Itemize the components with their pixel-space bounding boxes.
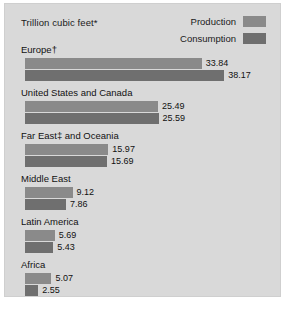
chart-legend: Production Consumption — [116, 14, 266, 48]
bar-value-label: 15.69 — [111, 156, 134, 167]
bar-row: 5.43 — [5, 242, 280, 253]
bar-group: Africa5.072.55 — [5, 259, 280, 296]
bar-consumption — [25, 285, 38, 296]
bar-consumption — [25, 242, 53, 253]
bar-group: Middle East9.127.86 — [5, 173, 280, 210]
bar-production — [25, 230, 55, 241]
chart-panel: Trillion cubic feet* Production Consumpt… — [4, 3, 281, 297]
bar-value-label: 25.49 — [162, 101, 185, 112]
bar-group: Latin America5.695.43 — [5, 216, 280, 253]
bar-group-label: Europe† — [21, 44, 280, 55]
bar-row: 33.84 — [5, 58, 280, 69]
legend-item-production: Production — [116, 14, 266, 29]
bar-group-label: Middle East — [21, 173, 280, 184]
bar-consumption — [25, 156, 107, 167]
bar-value-label: 15.97 — [112, 144, 135, 155]
legend-label-production: Production — [191, 16, 236, 27]
bar-group-label: Latin America — [21, 216, 280, 227]
bar-value-label: 25.59 — [163, 113, 186, 124]
bar-group: Europe†33.8438.17 — [5, 44, 280, 81]
bar-group-label: United States and Canada — [21, 87, 280, 98]
bar-consumption — [25, 70, 224, 81]
bar-row: 5.07 — [5, 273, 280, 284]
bar-row: 2.55 — [5, 285, 280, 296]
bar-row: 38.17 — [5, 70, 280, 81]
chart-units-title: Trillion cubic feet* — [21, 17, 98, 28]
bar-consumption — [25, 113, 159, 124]
bar-value-label: 38.17 — [228, 70, 251, 81]
bar-group-label: Far East‡ and Oceania — [21, 130, 280, 141]
bar-row: 5.69 — [5, 230, 280, 241]
legend-label-consumption: Consumption — [180, 33, 236, 44]
bar-value-label: 7.86 — [70, 199, 88, 210]
bar-production — [25, 101, 158, 112]
bar-consumption — [25, 199, 66, 210]
bar-row: 7.86 — [5, 199, 280, 210]
bar-row: 9.12 — [5, 187, 280, 198]
bar-group: United States and Canada25.4925.59 — [5, 87, 280, 124]
bar-group: Far East‡ and Oceania15.9715.69 — [5, 130, 280, 167]
bar-production — [25, 187, 73, 198]
bar-row: 15.69 — [5, 156, 280, 167]
bar-row: 25.49 — [5, 101, 280, 112]
bar-row: 15.97 — [5, 144, 280, 155]
bar-group-label: Africa — [21, 259, 280, 270]
bar-value-label: 5.69 — [59, 230, 77, 241]
bar-row: 25.59 — [5, 113, 280, 124]
bar-groups: Europe†33.8438.17United States and Canad… — [5, 44, 280, 302]
bar-value-label: 33.84 — [206, 58, 229, 69]
bar-production — [25, 58, 202, 69]
bar-value-label: 5.07 — [55, 273, 73, 284]
bar-value-label: 9.12 — [77, 187, 95, 198]
legend-swatch-consumption — [243, 33, 266, 44]
bar-value-label: 5.43 — [57, 242, 75, 253]
bar-production — [25, 273, 51, 284]
bar-value-label: 2.55 — [42, 285, 60, 296]
bar-production — [25, 144, 108, 155]
legend-swatch-production — [243, 16, 266, 27]
